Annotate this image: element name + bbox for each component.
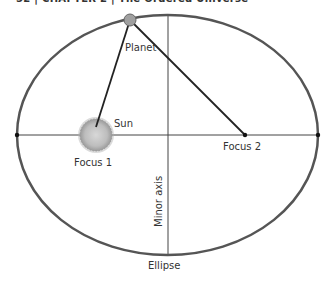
- vertex-left-dot: [15, 133, 19, 137]
- planet-to-focus2-line: [130, 20, 245, 135]
- minor-axis-label: Minor axis: [153, 176, 165, 227]
- planet-to-focus1-line: [96, 20, 130, 127]
- focus2-label: Focus 2: [223, 141, 261, 153]
- focus1-label: Focus 1: [74, 157, 112, 169]
- focus2-dot: [243, 133, 247, 137]
- ellipse-label: Ellipse: [148, 260, 180, 272]
- planet-label: Planet: [125, 42, 156, 54]
- orbit-diagram: [0, 0, 331, 282]
- planet-icon: [124, 14, 136, 26]
- vertex-right-dot: [316, 133, 320, 137]
- sun-label: Sun: [114, 118, 133, 130]
- sun-icon: [78, 117, 114, 153]
